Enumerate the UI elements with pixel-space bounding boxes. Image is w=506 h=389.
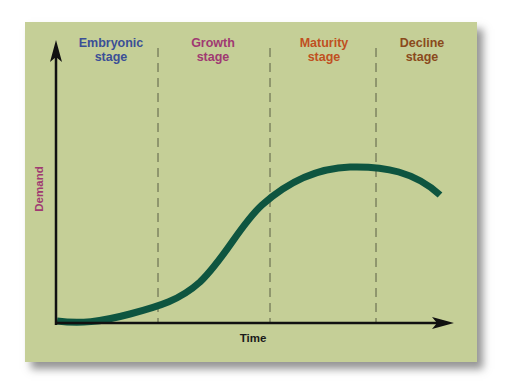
- stage-embryonic-line2: stage: [61, 50, 161, 64]
- stage-maturity-line1: Maturity: [274, 36, 374, 50]
- stage-decline-line2: stage: [372, 50, 472, 64]
- stage-label-embryonic: Embryonic stage: [61, 36, 161, 64]
- stage-label-maturity: Maturity stage: [274, 36, 374, 64]
- stage-maturity-line2: stage: [274, 50, 374, 64]
- stage-label-decline: Decline stage: [372, 36, 472, 64]
- stage-growth-line1: Growth: [163, 36, 263, 50]
- stage-label-growth: Growth stage: [163, 36, 263, 64]
- y-axis-label: Demand: [33, 158, 45, 220]
- stage-embryonic-line1: Embryonic: [61, 36, 161, 50]
- x-axis-label: Time: [226, 332, 280, 344]
- demand-curve: [57, 167, 440, 322]
- stage-growth-line2: stage: [163, 50, 263, 64]
- stage-decline-line1: Decline: [372, 36, 472, 50]
